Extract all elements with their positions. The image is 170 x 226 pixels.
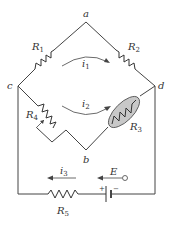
branch-a-d xyxy=(86,22,155,86)
label-r1: R1 xyxy=(31,41,44,54)
battery-plus: + xyxy=(99,185,105,193)
resistor-r1 xyxy=(35,50,54,69)
resistor-r5 xyxy=(48,190,78,198)
label-i2: i2 xyxy=(82,98,90,111)
node-label-a: a xyxy=(83,8,89,19)
branch-c-a xyxy=(18,22,86,86)
label-e: E xyxy=(109,166,118,177)
label-r5: R5 xyxy=(56,205,69,218)
emf-terminal xyxy=(123,176,128,181)
battery-minus: − xyxy=(113,185,119,193)
circuit-diagram: a c d b R1 R2 R4 R3 R5 E + − i1 i2 i3 xyxy=(0,0,170,226)
node-label-c: c xyxy=(7,80,13,91)
label-r3: R3 xyxy=(129,121,142,134)
node-label-d: d xyxy=(158,80,164,91)
node-label-b: b xyxy=(83,154,89,165)
label-i3: i3 xyxy=(60,165,68,178)
resistor-r4 xyxy=(38,104,56,128)
resistor-r2 xyxy=(116,50,135,69)
label-r4: R4 xyxy=(25,109,39,122)
label-i1: i1 xyxy=(82,58,90,71)
label-r2: R2 xyxy=(127,41,140,54)
branch-b-d xyxy=(86,86,155,150)
